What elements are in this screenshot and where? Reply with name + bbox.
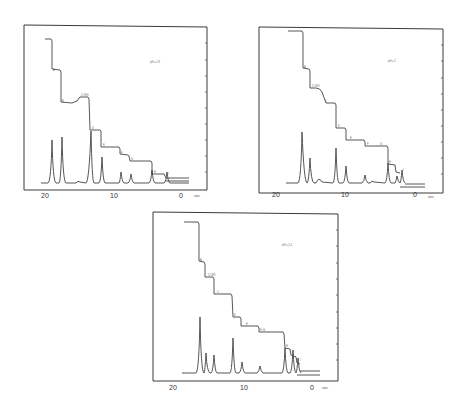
step-label-7: G bbox=[380, 142, 382, 146]
peak-trace bbox=[182, 317, 301, 373]
integral-trace bbox=[45, 39, 189, 178]
plot-frame bbox=[24, 25, 207, 190]
x-tick-20: 20 bbox=[272, 191, 280, 198]
step-label-5: E bbox=[103, 143, 105, 147]
spectrum-panel-3: A 3 CH3 C D E F+G H I pH = 2.4 20 10 0 s… bbox=[153, 212, 338, 391]
x-tick-0: 0 bbox=[413, 191, 417, 198]
step-label-3: C bbox=[217, 290, 219, 294]
step-label-4: D bbox=[234, 313, 236, 317]
x-unit: sec bbox=[322, 385, 328, 390]
step-label-3: 3 CH3 bbox=[81, 93, 89, 97]
step-label-2: B bbox=[62, 99, 64, 103]
spectrum-panel-2: A 3 CH3 C D E F G H I pH = 2 20 10 0 sec bbox=[259, 27, 443, 199]
integral-trace bbox=[288, 31, 400, 173]
step-label-8: H bbox=[389, 160, 391, 164]
step-label-4: D bbox=[338, 124, 340, 128]
ph-annotation: pH = 2 bbox=[388, 59, 396, 63]
step-label-5: E bbox=[246, 322, 248, 326]
x-tick-20: 20 bbox=[169, 384, 177, 391]
x-tick-0: 0 bbox=[310, 384, 314, 391]
step-label-1: A bbox=[53, 68, 55, 72]
ph-annotation: pH = 2.4 bbox=[282, 243, 292, 247]
x-tick-10: 10 bbox=[341, 191, 349, 198]
x-tick-10: 10 bbox=[110, 192, 118, 199]
step-label-1: A bbox=[200, 258, 202, 262]
step-label-6: F bbox=[367, 142, 369, 146]
step-label-4: D bbox=[92, 126, 94, 130]
step-label-6: F+G bbox=[260, 328, 265, 332]
x-tick-20: 20 bbox=[41, 192, 49, 199]
x-unit: sec bbox=[194, 193, 200, 198]
step-label-2: 3 CH3 bbox=[312, 84, 320, 88]
step-label-2: 3 CH3 bbox=[208, 273, 216, 277]
step-label-3: C bbox=[325, 99, 327, 103]
step-label-9: I bbox=[403, 168, 404, 172]
plot-frame bbox=[259, 27, 443, 193]
step-label-5: E bbox=[350, 136, 352, 140]
step-label-7: G bbox=[131, 157, 133, 161]
step-label-9: I bbox=[168, 172, 169, 176]
ph-annotation: pH = 2.8 bbox=[150, 60, 160, 64]
step-label-7: H bbox=[286, 344, 288, 348]
peak-trace bbox=[41, 131, 189, 183]
spectra-figure: A B 3 CH3 D E F G H I pH = 2.8 20 10 0 s… bbox=[0, 0, 467, 407]
x-tick-10: 10 bbox=[240, 384, 248, 391]
x-unit: sec bbox=[428, 194, 434, 199]
step-label-8: I bbox=[300, 358, 301, 362]
plot-frame bbox=[153, 212, 338, 381]
peak-trace bbox=[286, 132, 405, 183]
step-label-8: H bbox=[154, 170, 156, 174]
step-label-1: A bbox=[304, 65, 306, 69]
x-tick-0: 0 bbox=[179, 192, 183, 199]
spectrum-panel-1: A B 3 CH3 D E F G H I pH = 2.8 20 10 0 s… bbox=[24, 25, 207, 199]
